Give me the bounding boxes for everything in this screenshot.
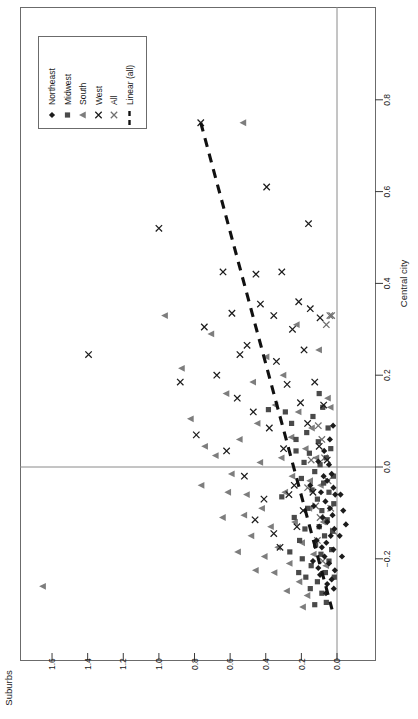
marker-square [324,600,329,605]
x-tick-label: 1.2 [118,658,128,670]
x-tick-label: 0.8 [190,658,200,670]
x-tick-label: 0.4 [261,658,271,670]
x-tick-label: 0.6 [225,658,235,670]
x-tick-label: 1.4 [83,658,93,670]
y-tick-label: 0.8 [382,94,392,106]
marker-square [300,556,305,561]
legend-label: South [78,83,88,105]
marker-square [297,538,302,543]
marker-square [301,460,306,465]
marker-square [293,448,298,453]
figure-root: 1.61.41.21.00.80.60.40.20.0Suburbs0.80.6… [0,0,418,719]
legend-label: Midwest [63,73,73,105]
marker-square [308,586,313,591]
y-tick-label: −0.2 [382,550,392,567]
marker-square [283,409,288,414]
x-tick-label: 0.0 [332,658,342,670]
marker-square [312,469,317,474]
legend-label: West [94,85,104,105]
marker-square [319,508,324,513]
y-axis-title: Central city [398,259,409,307]
marker-square [296,570,301,575]
scatter-plot: 1.61.41.21.00.80.60.40.20.0Suburbs0.80.6… [0,0,418,719]
y-tick-label: 0.2 [382,369,392,381]
marker-square [304,430,309,435]
marker-square [279,494,284,499]
marker-square [315,497,320,502]
marker-square [317,391,322,396]
marker-square [302,526,307,531]
marker-square [287,549,292,554]
marker-square [315,579,320,584]
y-tick-label: 0.4 [382,277,392,289]
marker-square [293,437,298,442]
y-tick-label: 0.0 [382,461,392,473]
marker-square [292,515,297,520]
x-tick-label: 1.6 [47,658,57,670]
x-tick-label: 1.0 [154,658,164,670]
marker-square [328,446,333,451]
marker-square [322,533,327,538]
legend-label: All [109,95,119,105]
marker-square [65,112,70,117]
marker-square [299,476,304,481]
marker-square [331,501,336,506]
marker-square [307,451,312,456]
legend-label: Northeast [47,68,57,105]
marker-square [303,575,308,580]
legend-label: Linear (all) [125,65,135,105]
marker-square [312,602,317,607]
x-axis-title: Suburbs [3,670,14,706]
y-tick-label: 0.6 [382,185,392,197]
marker-square [266,407,271,412]
marker-square [289,421,294,426]
x-tick-label: 0.2 [297,658,307,670]
marker-square [310,414,315,419]
marker-square [325,425,330,430]
marker-square [326,490,331,495]
